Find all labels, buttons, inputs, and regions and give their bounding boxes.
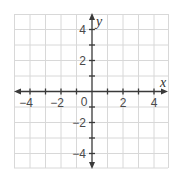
x-tick-label-neg4: −4: [19, 96, 33, 110]
y-tick-label-neg2: −2: [72, 116, 86, 130]
origin-label: 0: [81, 95, 88, 109]
x-tick-label-neg2: −2: [50, 96, 64, 110]
x-tick-label-2: 2: [120, 96, 127, 110]
y-tick-label-neg4: −4: [72, 147, 86, 161]
coordinate-plane: y x 0 −4 −2 2 4 4 2 −2 −4: [0, 0, 176, 182]
y-axis-label: y: [94, 14, 103, 29]
x-axis-left-arrow-icon: [14, 89, 21, 95]
x-tick-label-4: 4: [151, 96, 158, 110]
x-axis-label: x: [159, 75, 167, 90]
y-tick-label-4: 4: [79, 23, 86, 37]
y-tick-label-2: 2: [79, 54, 86, 68]
x-axis: [14, 89, 168, 95]
